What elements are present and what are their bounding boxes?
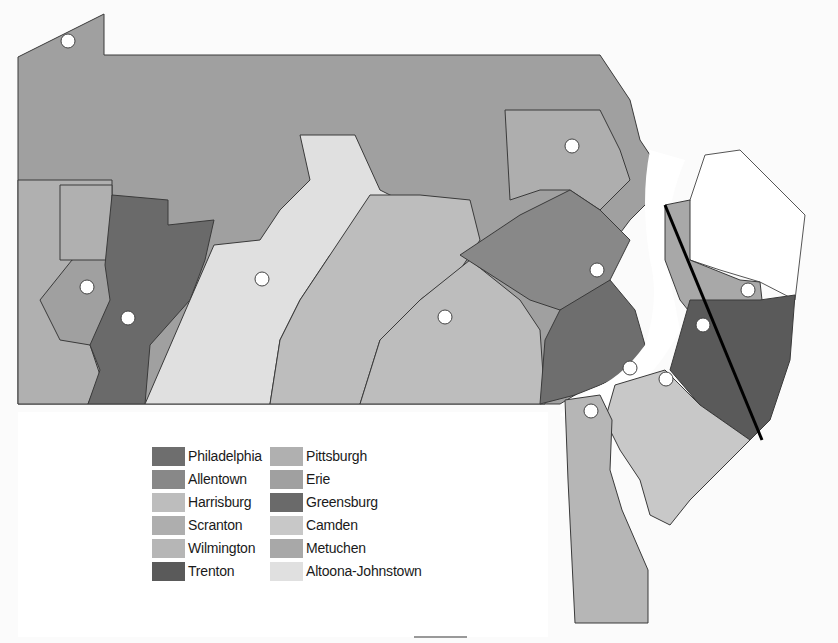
legend-label: Philadelphia [188,448,262,464]
legend-label: Allentown [188,471,247,487]
legend-swatch [270,447,303,466]
office-marker-harrisburg [438,310,452,324]
legend-item-philadelphia: Philadelphia [152,446,270,466]
legend-label: Metuchen [306,540,366,556]
legend-swatch [152,470,185,489]
legend-label: Wilmington [188,540,255,556]
region-pittsburgh-north [60,185,112,260]
legend-swatch [270,562,303,581]
legend-label: Greensburg [306,494,378,510]
legend-item-allentown: Allentown [152,469,270,489]
office-marker-erie [61,34,75,48]
legend-swatch [270,493,303,512]
office-marker-altoona-johnstown [255,272,269,286]
office-marker-trenton [696,318,710,332]
legend-item-greensburg: Greensburg [270,492,430,512]
legend-item-metuchen: Metuchen [270,538,430,558]
legend-label: Camden [306,517,358,533]
legend-label: Scranton [188,517,242,533]
legend-swatch [152,516,185,535]
office-marker-scranton [565,139,579,153]
legend-swatch [270,539,303,558]
legend-swatch [270,470,303,489]
legend-item-erie: Erie [270,469,430,489]
legend-item-camden: Camden [270,515,430,535]
region-map: Philadelphia Pittsburgh Allentown Erie H… [0,0,838,643]
legend-item-pittsburgh: Pittsburgh [270,446,430,466]
legend-label: Erie [306,471,330,487]
legend-swatch [152,493,185,512]
legend-item-harrisburg: Harrisburg [152,492,270,512]
legend-item-scranton: Scranton [152,515,270,535]
legend-swatch [152,539,185,558]
legend-swatch [152,447,185,466]
legend-item-altoona-johnstown: Altoona-Johnstown [270,561,430,581]
legend-swatch [152,562,185,581]
legend-label: Pittsburgh [306,448,367,464]
office-marker-philadelphia [623,361,637,375]
legend-swatch [270,516,303,535]
legend-item-trenton: Trenton [152,561,270,581]
office-marker-allentown [590,263,604,277]
legend-label: Harrisburg [188,494,251,510]
map-legend: Philadelphia Pittsburgh Allentown Erie H… [152,446,430,581]
office-marker-metuchen [741,283,755,297]
legend-item-wilmington: Wilmington [152,538,270,558]
office-marker-wilmington [584,404,598,418]
office-marker-pittsburgh [80,280,94,294]
office-marker-greensburg [121,311,135,325]
legend-label: Altoona-Johnstown [306,563,422,579]
legend-label: Trenton [188,563,234,579]
scale-bar [414,636,467,638]
office-marker-camden [659,372,673,386]
